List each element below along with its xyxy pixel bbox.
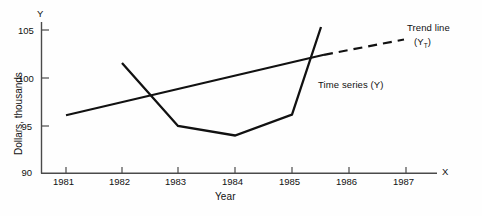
- trend-symbol-close: ): [428, 36, 431, 47]
- x-axis-ticks: [66, 167, 406, 173]
- x-tick-label-1982: 1982: [109, 176, 130, 187]
- trend-line-solid-segment: [66, 55, 324, 115]
- y-tick-label-105: 105: [18, 25, 34, 36]
- y-tick-label-90: 90: [22, 167, 33, 178]
- x-axis-letter: X: [442, 166, 448, 177]
- x-tick-label-1983: 1983: [165, 176, 186, 187]
- y-axis-letter: Y: [37, 8, 43, 19]
- chart-figure: 105 100 95 90 1981 1982 1983 1984 1985 1…: [0, 0, 482, 216]
- time-series-annotation-label: Time series (Y): [318, 79, 384, 90]
- trend-line-annotation-symbol: (YT): [414, 36, 431, 49]
- x-tick-label-1985: 1985: [279, 176, 300, 187]
- trend-line-annotation-label: Trend line: [407, 22, 450, 33]
- x-tick-label-1987: 1987: [393, 176, 414, 187]
- x-tick-label-1984: 1984: [222, 176, 243, 187]
- x-axis-title: Year: [215, 191, 236, 202]
- y-axis-ticks: [42, 30, 50, 126]
- x-tick-label-1981: 1981: [53, 176, 74, 187]
- y-axis-title: Dollars, thousands: [13, 72, 24, 155]
- time-series-line: [122, 27, 321, 136]
- trend-line-dashed-extension: [324, 40, 404, 55]
- x-tick-label-1986: 1986: [336, 176, 357, 187]
- trend-symbol-open: (Y: [414, 36, 424, 47]
